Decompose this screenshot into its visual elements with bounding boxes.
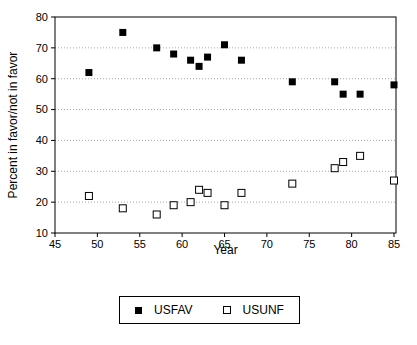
- data-point-usunf: [204, 189, 211, 196]
- data-point-usfav: [221, 41, 228, 48]
- data-point-usfav: [238, 57, 245, 64]
- data-point-usunf: [289, 180, 296, 187]
- x-axis-title: Year: [55, 243, 396, 257]
- data-point-usunf: [391, 177, 398, 184]
- data-point-usfav: [340, 91, 347, 98]
- y-tick-label: 40: [36, 134, 48, 146]
- legend-label-usunf: USUNF: [243, 303, 284, 317]
- y-tick-label: 10: [36, 227, 48, 239]
- data-point-usfav: [391, 81, 398, 88]
- data-point-usunf: [196, 186, 203, 193]
- data-point-usunf: [340, 159, 347, 166]
- data-point-usfav: [187, 57, 194, 64]
- data-point-usunf: [119, 205, 126, 212]
- legend-box: USFAV USUNF: [119, 296, 300, 324]
- data-point-usfav: [357, 91, 364, 98]
- y-tick-label: 20: [36, 196, 48, 208]
- data-point-usfav: [204, 54, 211, 61]
- open-square-icon: [223, 306, 231, 314]
- data-point-usfav: [289, 78, 296, 85]
- legend-label-usfav: USFAV: [154, 303, 192, 317]
- data-point-usunf: [85, 192, 92, 199]
- data-point-usunf: [331, 165, 338, 172]
- data-point-usunf: [187, 199, 194, 206]
- legend-item-usunf: USUNF: [223, 303, 284, 317]
- plot-frame: [55, 17, 396, 233]
- filled-square-icon: [135, 307, 142, 314]
- y-axis-title: Percent in favor/not in favor: [6, 15, 22, 235]
- data-point-usfav: [196, 63, 203, 70]
- y-tick-label: 50: [36, 103, 48, 115]
- y-tick-label: 80: [36, 11, 48, 23]
- chart-screenshot: 1020304050607080455055606570758085 Perce…: [0, 0, 417, 345]
- data-point-usfav: [331, 78, 338, 85]
- data-point-usunf: [357, 152, 364, 159]
- data-point-usfav: [170, 51, 177, 58]
- y-tick-label: 30: [36, 165, 48, 177]
- scatter-plot-canvas: 1020304050607080455055606570758085: [0, 0, 417, 345]
- legend-item-usfav: USFAV: [135, 303, 192, 317]
- data-point-usfav: [85, 69, 92, 76]
- y-tick-label: 60: [36, 73, 48, 85]
- data-point-usunf: [153, 211, 160, 218]
- data-point-usunf: [170, 202, 177, 209]
- data-point-usunf: [221, 202, 228, 209]
- data-point-usfav: [153, 44, 160, 51]
- data-point-usfav: [119, 29, 126, 36]
- y-tick-label: 70: [36, 42, 48, 54]
- data-point-usunf: [238, 189, 245, 196]
